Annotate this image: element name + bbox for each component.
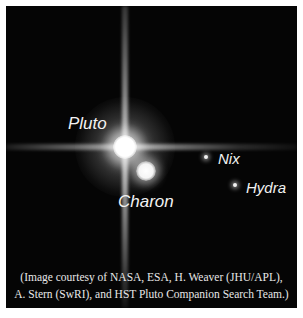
pluto-system-image: Pluto Charon Nix Hydra (Image courtesy o…	[6, 6, 297, 308]
hydra-body	[233, 183, 237, 187]
caption-line-1: (Image courtesy of NASA, ESA, H. Weaver …	[6, 269, 297, 286]
label-hydra: Hydra	[246, 180, 286, 195]
pluto-body	[113, 135, 137, 159]
diffraction-spike-horizontal	[6, 144, 297, 150]
nix-body	[204, 155, 208, 159]
label-charon: Charon	[118, 193, 174, 210]
caption-line-2: A. Stern (SwRI), and HST Pluto Companion…	[6, 286, 297, 303]
image-credit-caption: (Image courtesy of NASA, ESA, H. Weaver …	[6, 269, 297, 303]
label-pluto: Pluto	[68, 115, 107, 132]
label-nix: Nix	[218, 151, 240, 166]
charon-body	[136, 161, 156, 181]
